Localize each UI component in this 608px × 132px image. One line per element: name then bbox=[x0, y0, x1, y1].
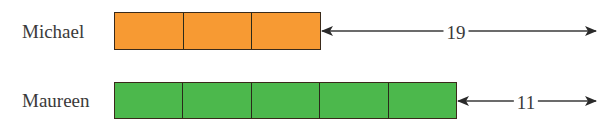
difference-label-maureen: 11 bbox=[514, 93, 538, 112]
difference-label-michael: 19 bbox=[444, 23, 469, 42]
